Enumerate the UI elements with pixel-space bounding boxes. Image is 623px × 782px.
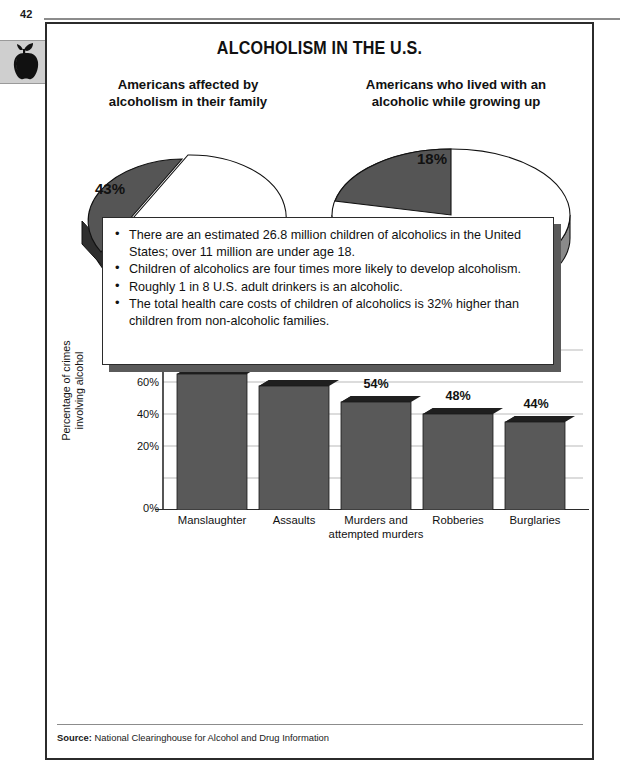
bar-assaults bbox=[259, 380, 339, 510]
list-item: Children of alcoholics are four times mo… bbox=[115, 261, 539, 278]
source-label: Source: bbox=[57, 732, 92, 743]
source-text: National Clearinghouse for Alcohol and D… bbox=[95, 732, 330, 743]
bar-value-robberies: 48% bbox=[415, 389, 501, 403]
pie-chart-1-title: Americans affected by alcoholism in thei… bbox=[51, 76, 325, 110]
cat-label-burglaries: Burglaries bbox=[481, 514, 589, 528]
bar-robberies bbox=[423, 408, 503, 510]
list-item: There are an estimated 26.8 million chil… bbox=[115, 227, 539, 260]
pie-2-value-label: 18% bbox=[417, 150, 447, 167]
bar-manslaughter bbox=[177, 368, 257, 510]
source-line: Source: National Clearinghouse for Alcoh… bbox=[57, 732, 329, 743]
worksheet-page: 42 ALCOHOLISM IN THE U.S. Americans affe… bbox=[0, 0, 623, 782]
page-title: ALCOHOLISM IN THE U.S. bbox=[69, 38, 570, 59]
content-frame: ALCOHOLISM IN THE U.S. Americans affecte… bbox=[45, 22, 594, 760]
list-item: Roughly 1 in 8 U.S. adult drinkers is an… bbox=[115, 279, 539, 296]
footer-rule bbox=[57, 724, 583, 725]
bar-value-murders: 54% bbox=[333, 377, 419, 391]
apple-icon bbox=[6, 43, 42, 81]
bar-value-burglaries: 44% bbox=[493, 397, 579, 411]
bar-burglaries bbox=[505, 416, 575, 510]
header-rule bbox=[44, 18, 620, 20]
facts-box: There are an estimated 26.8 million chil… bbox=[102, 217, 554, 365]
pie-chart-2-title: Americans who lived with an alcoholic wh… bbox=[319, 76, 593, 110]
y-tick-40: 40% bbox=[113, 408, 159, 420]
apple-tab bbox=[0, 40, 46, 84]
y-tick-0: 0% bbox=[113, 502, 159, 514]
y-tick-20: 20% bbox=[113, 440, 159, 452]
bar-murders bbox=[341, 396, 421, 510]
facts-list: There are an estimated 26.8 million chil… bbox=[115, 227, 539, 330]
page-number: 42 bbox=[20, 8, 33, 20]
y-tick-60: 60% bbox=[113, 376, 159, 388]
pie-1-value-label: 43% bbox=[95, 180, 125, 197]
list-item: The total health care costs of children … bbox=[115, 296, 539, 329]
